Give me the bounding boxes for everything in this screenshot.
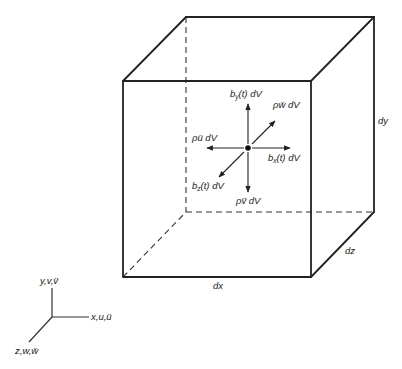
cube-edge-top-right-depth: [311, 17, 374, 81]
coordinate-axes: y,v,v̈ x,u,ü z,w,ẅ: [14, 275, 112, 356]
volume-element-diagram: by(t) dV ρẅ dV ρü dV bx(t) dV bz(t) dV …: [0, 0, 402, 369]
label-dz: dz: [345, 245, 355, 256]
vector-rho-w-diag: [252, 121, 275, 144]
label-bx: bx(t) dV: [268, 152, 301, 164]
force-vectors: [207, 104, 290, 192]
label-dy: dy: [378, 115, 389, 126]
axis-z-label: z,w,ẅ: [14, 345, 39, 356]
label-rho-u: ρü dV: [191, 132, 219, 143]
label-bz: bz(t) dV: [192, 180, 225, 192]
label-by: by(t) dV: [230, 88, 263, 101]
axis-y-label: y,v,v̈: [39, 275, 59, 286]
cube-edge-bottom-right-depth: [311, 212, 374, 277]
axis-z: [29, 317, 52, 342]
hidden-edge-bottom-left-depth: [123, 212, 186, 277]
cube-edge-top-left-depth: [123, 17, 186, 81]
axis-x-label: x,u,ü: [90, 311, 112, 322]
label-dx: dx: [213, 280, 224, 291]
label-rho-w: ρẅ dV: [272, 99, 301, 110]
label-rho-v: ρv̈ dV: [235, 195, 262, 206]
vector-bz-diag: [219, 152, 244, 177]
center-point: [245, 145, 251, 151]
